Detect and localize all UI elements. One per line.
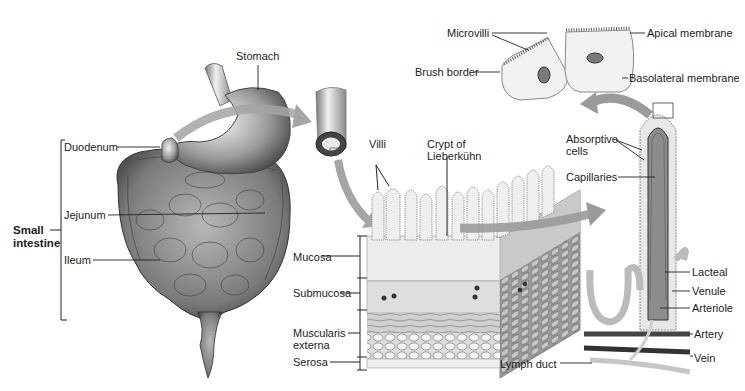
label-venule: Venule bbox=[692, 285, 726, 297]
label-lymph-duct: Lymph duct bbox=[500, 358, 556, 370]
label-small-intestine-1: Small bbox=[13, 224, 44, 237]
organs-illustration bbox=[117, 63, 312, 378]
label-stomach: Stomach bbox=[236, 50, 279, 62]
label-lacteal: Lacteal bbox=[692, 266, 727, 278]
label-serosa: Serosa bbox=[293, 356, 328, 368]
label-arteriole: Arteriole bbox=[692, 302, 733, 314]
epithelial-cells-illustration bbox=[502, 28, 634, 100]
label-brush-border: Brush border bbox=[415, 66, 479, 78]
label-vein: Vein bbox=[694, 352, 715, 364]
wall-section-illustration bbox=[367, 166, 606, 378]
label-ileum: Ileum bbox=[64, 254, 91, 266]
label-duodenum: Duodenum bbox=[64, 141, 118, 153]
diagram-artwork bbox=[0, 0, 745, 391]
label-absorptive-1: Absorptive bbox=[566, 133, 618, 145]
label-artery: Artery bbox=[694, 328, 723, 340]
label-villi: Villi bbox=[369, 138, 386, 150]
label-jejunum: Jejunum bbox=[64, 209, 106, 221]
label-submucosa: Submucosa bbox=[293, 287, 351, 299]
label-apical-membrane: Apical membrane bbox=[647, 27, 733, 39]
label-small-intestine-2: intestine bbox=[13, 237, 60, 250]
label-microvilli: Microvilli bbox=[447, 27, 489, 39]
label-crypt-2: Lieberkühn bbox=[427, 150, 481, 162]
small-intestine-bracket bbox=[61, 140, 67, 320]
label-basolateral-membrane: Basolateral membrane bbox=[629, 72, 740, 84]
label-mucosa: Mucosa bbox=[293, 251, 332, 263]
label-muscularis-1: Muscularis bbox=[293, 327, 346, 339]
label-crypt-1: Crypt of bbox=[427, 138, 466, 150]
label-absorptive-2: cells bbox=[566, 145, 588, 157]
label-muscularis-2: externa bbox=[293, 339, 330, 351]
label-capillaries: Capillaries bbox=[566, 171, 617, 183]
